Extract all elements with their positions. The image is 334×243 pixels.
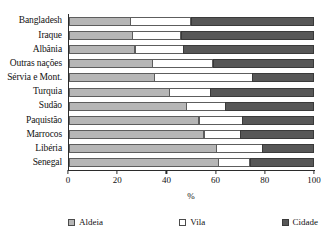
- bar-row: [69, 14, 315, 28]
- legend-swatch-cidade: [282, 219, 289, 226]
- x-axis-tick-label: 40: [162, 176, 171, 185]
- stacked-bar: [69, 102, 315, 111]
- x-axis-tick-label: 100: [307, 176, 321, 185]
- x-axis-tick: [215, 170, 216, 174]
- bar-segment-cidade: [210, 88, 313, 97]
- bar-row: [69, 42, 315, 56]
- bar-segment-cidade: [213, 59, 314, 68]
- x-axis-ticks: [68, 170, 314, 175]
- bar-row: [69, 85, 315, 99]
- bar-segment-aldeia: [69, 59, 153, 68]
- stacked-bar: [69, 130, 315, 139]
- x-axis-tick: [117, 170, 118, 174]
- bar-segment-cidade: [225, 102, 314, 111]
- y-axis-label: Marrocos: [0, 128, 66, 142]
- bar-row: [69, 71, 315, 85]
- y-axis-label: Sérvia e Mont.: [0, 71, 66, 85]
- legend-item-aldeia: Aldeia: [68, 218, 103, 227]
- bar-segment-aldeia: [69, 130, 204, 139]
- bar-row: [69, 128, 315, 142]
- stacked-bar: [69, 88, 315, 97]
- bar-segment-vila: [154, 73, 252, 82]
- bar-segment-vila: [218, 158, 250, 167]
- bar-segment-cidade: [183, 45, 313, 54]
- bar-segment-aldeia: [69, 116, 199, 125]
- stacked-bar: [69, 144, 315, 153]
- bar-segment-cidade: [240, 130, 314, 139]
- x-axis-tick: [166, 170, 167, 174]
- bar-segment-aldeia: [69, 158, 219, 167]
- plot-area: [68, 14, 315, 171]
- bar-segment-aldeia: [69, 102, 187, 111]
- bar-row: [69, 156, 315, 170]
- bar-segment-cidade: [181, 31, 314, 40]
- bar-segment-vila: [152, 59, 214, 68]
- x-axis-tick: [67, 170, 68, 174]
- y-axis-label: Bangladesh: [0, 14, 66, 28]
- bar-segment-aldeia: [69, 144, 217, 153]
- stacked-bar: [69, 116, 315, 125]
- y-axis-label: Senegal: [0, 156, 66, 170]
- bar-row: [69, 57, 315, 71]
- bar-row: [69, 28, 315, 42]
- x-axis-tick: [264, 170, 265, 174]
- x-axis-tick: [313, 170, 314, 174]
- bar-segment-aldeia: [69, 45, 135, 54]
- bar-segment-aldeia: [69, 88, 170, 97]
- bar-segment-vila: [199, 116, 243, 125]
- legend-label: Aldeia: [79, 218, 103, 227]
- bar-segment-vila: [130, 17, 192, 26]
- bar-segment-vila: [204, 130, 241, 139]
- stacked-bar: [69, 45, 315, 54]
- legend-item-cidade: Cidade: [282, 218, 319, 227]
- stacked-bar: [69, 73, 315, 82]
- x-axis-tick-label: 80: [260, 176, 269, 185]
- bar-segment-cidade: [191, 17, 314, 26]
- stacked-bar: [69, 31, 315, 40]
- bar-segment-vila: [169, 88, 211, 97]
- chart-legend: AldeiaVilaCidade: [68, 218, 318, 227]
- x-axis-title: %: [68, 192, 314, 201]
- bar-segment-vila: [135, 45, 184, 54]
- bar-segment-aldeia: [69, 31, 133, 40]
- stacked-bar-chart: BangladeshIraqueAlbâniaOutras naçõesSérv…: [0, 0, 334, 243]
- y-axis-label: Iraque: [0, 28, 66, 42]
- bar-segment-cidade: [250, 158, 314, 167]
- stacked-bar: [69, 59, 315, 68]
- stacked-bar: [69, 17, 315, 26]
- bar-row: [69, 99, 315, 113]
- x-axis-tick-label: 20: [113, 176, 122, 185]
- bar-row: [69, 142, 315, 156]
- bar-segment-aldeia: [69, 17, 131, 26]
- legend-item-vila: Vila: [179, 218, 205, 227]
- bar-row: [69, 113, 315, 127]
- bar-group: [69, 14, 315, 170]
- bar-segment-cidade: [252, 73, 314, 82]
- bar-segment-vila: [216, 144, 263, 153]
- y-axis-label: Outras nações: [0, 57, 66, 71]
- bar-segment-cidade: [242, 116, 313, 125]
- legend-swatch-vila: [179, 219, 186, 226]
- legend-label: Vila: [190, 218, 205, 227]
- y-axis-label: Albânia: [0, 42, 66, 56]
- bar-segment-cidade: [262, 144, 314, 153]
- x-axis-tick-label: 60: [211, 176, 220, 185]
- x-axis-tick-labels: 020406080100: [68, 176, 314, 188]
- y-axis-label: Libéria: [0, 142, 66, 156]
- bar-segment-vila: [132, 31, 181, 40]
- x-axis-tick-label: 0: [66, 176, 71, 185]
- bar-segment-vila: [186, 102, 225, 111]
- y-axis-label: Paquistão: [0, 113, 66, 127]
- y-axis-label: Turquia: [0, 85, 66, 99]
- y-axis-label: Sudão: [0, 99, 66, 113]
- bar-segment-aldeia: [69, 73, 155, 82]
- legend-label: Cidade: [293, 218, 319, 227]
- legend-swatch-aldeia: [68, 219, 75, 226]
- y-axis-category-labels: BangladeshIraqueAlbâniaOutras naçõesSérv…: [0, 14, 66, 170]
- stacked-bar: [69, 158, 315, 167]
